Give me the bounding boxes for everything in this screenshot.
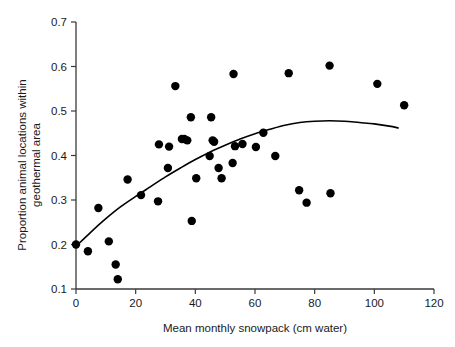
y-tick-label: 0.1	[51, 283, 67, 295]
y-tick-label: 0.6	[51, 61, 67, 73]
data-point	[325, 61, 333, 69]
data-point	[214, 164, 222, 172]
data-point	[302, 198, 310, 206]
data-point	[326, 189, 334, 197]
data-point	[295, 186, 303, 194]
data-point	[114, 275, 122, 283]
data-point	[238, 140, 246, 148]
chart-background	[0, 0, 455, 347]
y-tick-label: 0.2	[51, 239, 67, 251]
x-tick-label: 20	[129, 297, 142, 309]
y-tick-label: 0.4	[51, 150, 68, 162]
data-point	[123, 175, 131, 183]
x-tick-label: 40	[189, 297, 202, 309]
x-tick-label: 120	[424, 297, 443, 309]
data-point	[183, 136, 191, 144]
data-point	[228, 159, 236, 167]
data-point	[111, 260, 119, 268]
data-point	[231, 142, 239, 150]
data-point	[105, 237, 113, 245]
data-point	[252, 143, 260, 151]
data-point	[137, 191, 145, 199]
data-point	[154, 197, 162, 205]
y-tick-label: 0.3	[51, 194, 67, 206]
scatter-plot-figure: 0.10.20.30.40.50.60.7 020406080100120 Me…	[0, 0, 455, 347]
y-tick-label: 0.5	[51, 105, 67, 117]
data-point	[205, 152, 213, 160]
y-axis-title-line-2: geothermal area	[30, 123, 42, 207]
x-tick-label: 100	[365, 297, 384, 309]
data-point	[192, 174, 200, 182]
chart-canvas: 0.10.20.30.40.50.60.7 020406080100120 Me…	[0, 0, 455, 347]
data-point	[373, 80, 381, 88]
data-point	[285, 69, 293, 77]
data-point	[271, 152, 279, 160]
x-tick-label: 80	[308, 297, 321, 309]
y-axis-title-line-1: Proportion animal locations within	[16, 79, 28, 250]
data-point	[400, 101, 408, 109]
data-point	[171, 82, 179, 90]
data-point	[187, 113, 195, 121]
data-point	[229, 70, 237, 78]
data-point	[217, 174, 225, 182]
data-point	[165, 142, 173, 150]
data-point	[207, 113, 215, 121]
data-point	[259, 129, 267, 137]
x-axis-title: Mean monthly snowpack (cm water)	[163, 322, 347, 334]
data-point	[72, 240, 80, 248]
data-point	[94, 204, 102, 212]
x-tick-label: 0	[73, 297, 79, 309]
data-point	[84, 247, 92, 255]
x-tick-label: 60	[249, 297, 262, 309]
data-point	[155, 140, 163, 148]
data-point	[210, 138, 218, 146]
data-point	[188, 217, 196, 225]
data-point	[164, 164, 172, 172]
y-tick-label: 0.7	[51, 16, 67, 28]
